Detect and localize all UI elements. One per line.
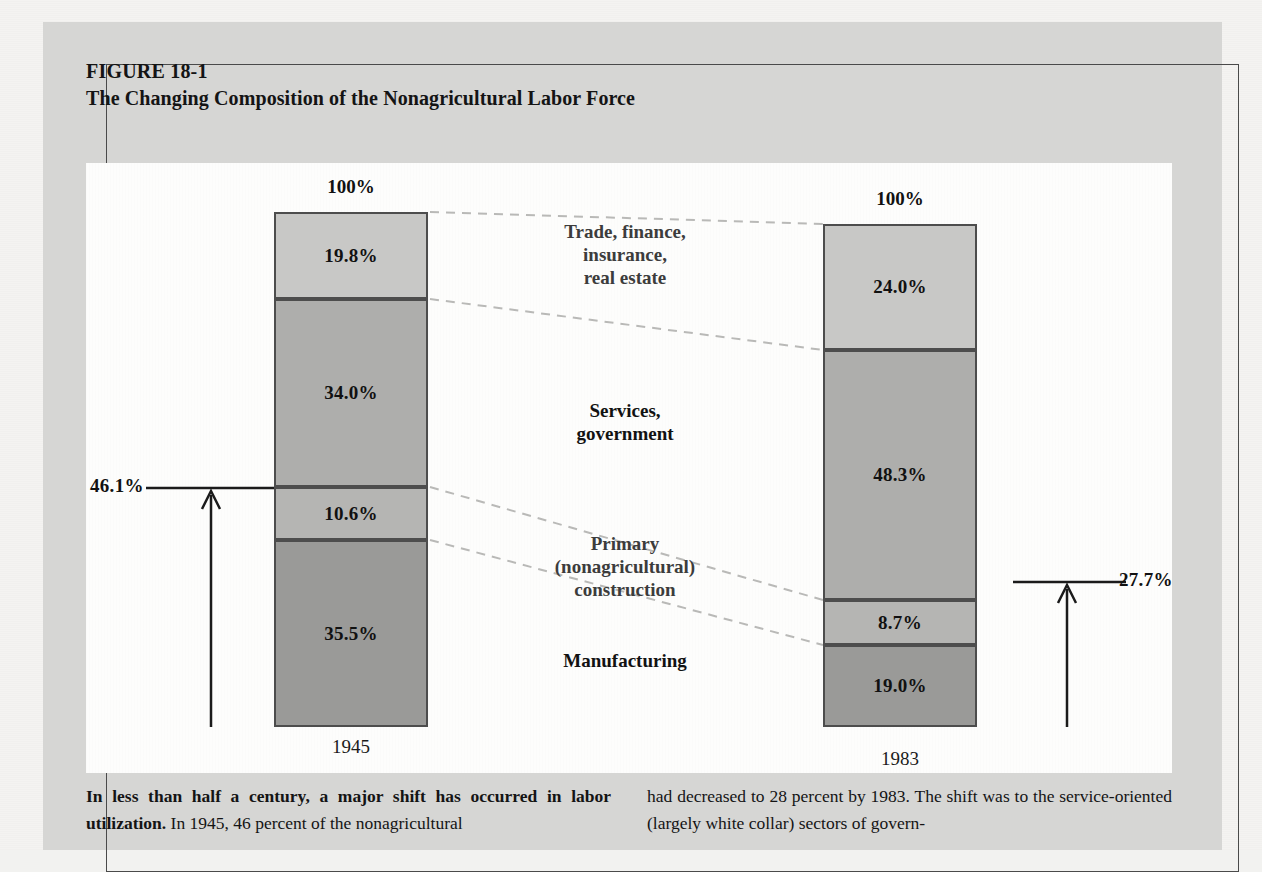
category-label-manufacturing: Manufacturing — [475, 649, 775, 672]
segment-1945-primary[interactable]: 10.6% — [274, 487, 428, 540]
bar-1983[interactable]: 100% 24.0% 48.3% 8.7% 19.0% 1983 — [823, 224, 977, 727]
figure-body-text: In less than half a century, a major shi… — [86, 783, 1172, 836]
segment-1983-primary[interactable]: 8.7% — [823, 600, 977, 645]
segment-1983-primary-value: 8.7% — [878, 612, 922, 634]
bar-1983-total-label: 100% — [823, 188, 977, 210]
chart-plot-area: 46.1% 27.7% 100% 19.8% 34.0% 10.6% 35.5%… — [86, 163, 1172, 773]
segment-1945-trade[interactable]: 19.8% — [274, 212, 428, 299]
segment-1983-manufacturing[interactable]: 19.0% — [823, 645, 977, 727]
segment-1945-services-value: 34.0% — [324, 382, 378, 404]
bar-1945[interactable]: 100% 19.8% 34.0% 10.6% 35.5% 1945 — [274, 212, 428, 727]
body-text-left-rest: In 1945, 46 percent of the nonagricultur… — [166, 813, 462, 833]
category-label-services-line2: government — [475, 422, 775, 445]
category-label-trade-line2: insurance, — [475, 243, 775, 266]
connector-trade-services — [430, 299, 823, 350]
category-label-trade-line3: real estate — [475, 266, 775, 289]
bar-1945-total-label: 100% — [274, 176, 428, 198]
segment-1983-services[interactable]: 48.3% — [823, 350, 977, 600]
figure-title: The Changing Composition of the Nonagric… — [86, 85, 1086, 112]
segment-1983-trade[interactable]: 24.0% — [823, 224, 977, 350]
segment-1945-trade-value: 19.8% — [324, 245, 378, 267]
category-label-primary-line2: (nonagricultural) — [475, 555, 775, 578]
segment-1945-primary-value: 10.6% — [324, 503, 378, 525]
category-label-trade-line1: Trade, finance, — [475, 220, 775, 243]
annotation-label-27: 27.7% — [1119, 569, 1173, 591]
figure-number: FIGURE 18-1 — [86, 58, 1086, 85]
body-text-column-left: In less than half a century, a major shi… — [86, 783, 611, 836]
segment-1945-manufacturing[interactable]: 35.5% — [274, 540, 428, 727]
bar-1983-category-label: 1983 — [823, 748, 977, 770]
segment-1983-manufacturing-value: 19.0% — [873, 675, 927, 697]
category-label-services-line1: Services, — [475, 399, 775, 422]
segment-1945-manufacturing-value: 35.5% — [324, 623, 378, 645]
category-label-services: Services, government — [475, 399, 775, 445]
category-label-trade: Trade, finance, insurance, real estate — [475, 220, 775, 290]
category-label-primary-line3: construction — [475, 578, 775, 601]
segment-1983-services-value: 48.3% — [873, 464, 927, 486]
segment-1983-trade-value: 24.0% — [873, 276, 927, 298]
segment-1945-services[interactable]: 34.0% — [274, 299, 428, 487]
bar-1945-category-label: 1945 — [274, 736, 428, 758]
annotation-label-46: 46.1% — [90, 475, 144, 497]
figure-caption-header: FIGURE 18-1 The Changing Composition of … — [86, 58, 1086, 112]
category-label-primary: Primary (nonagricultural) construction — [475, 532, 775, 602]
body-text-column-right: had decreased to 28 percent by 1983. The… — [647, 783, 1172, 836]
category-label-primary-line1: Primary — [475, 532, 775, 555]
